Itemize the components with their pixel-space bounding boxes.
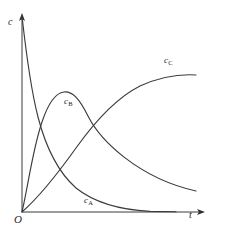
plot-canvas bbox=[0, 0, 227, 234]
concentration-time-figure: c t O cA cB cC bbox=[0, 0, 227, 234]
origin-label: O bbox=[14, 214, 22, 225]
x-axis-label: t bbox=[189, 210, 192, 220]
y-axis-label: c bbox=[8, 17, 12, 27]
curve-label-cA: cA bbox=[84, 196, 93, 205]
curve-label-cA-subscript: A bbox=[88, 199, 93, 206]
curve-label-cC-subscript: C bbox=[168, 59, 172, 66]
curve-label-cC: cC bbox=[164, 56, 172, 65]
curve-label-cB-subscript: B bbox=[68, 100, 72, 107]
curve-label-cB: cB bbox=[64, 97, 72, 106]
curve-cB bbox=[22, 92, 196, 212]
